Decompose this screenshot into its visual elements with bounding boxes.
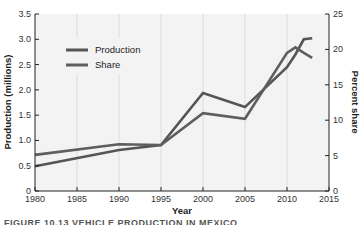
x-axis-title: Year [172,205,192,216]
x-tick-label: 1990 [109,194,129,204]
y2-tick-label: 25 [333,9,343,19]
x-tick-label: 2010 [277,194,297,204]
y2-tick-label: 0 [333,186,338,196]
y-tick-label: 2.0 [18,85,31,95]
y-tick-label: 1.5 [18,110,31,120]
right-axis-title: Percent share [350,71,360,134]
y-tick-label: 0.5 [18,161,31,171]
legend-label-production: Production [95,44,140,55]
x-tick-label: 1985 [67,194,87,204]
left-axis-title: Production (millions) [2,55,13,150]
y2-tick-label: 10 [333,115,343,125]
y-tick-label: 1.0 [18,135,31,145]
y-tick-label: 3.0 [18,34,31,44]
y2-tick-label: 5 [333,151,338,161]
y-tick-label: 0 [26,186,31,196]
y2-tick-label: 20 [333,44,343,54]
y-tick-label: 2.5 [18,60,31,70]
line-chart: 19801985199019952000200520102015 00.51.0… [0,0,360,225]
x-tick-label: 2000 [193,194,213,204]
legend: Production Share [60,38,150,74]
x-tick-label: 2005 [235,194,255,204]
legend-label-share: Share [95,59,120,70]
figure-caption: FIGURE 10.13 VEHICLE PRODUCTION IN MEXIC… [4,218,238,225]
y2-tick-label: 15 [333,80,343,90]
x-tick-label: 1995 [151,194,171,204]
y-tick-label: 3.5 [18,9,31,19]
